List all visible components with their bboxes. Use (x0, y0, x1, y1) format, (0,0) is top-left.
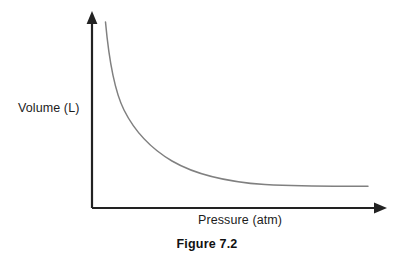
pressure-volume-curve (106, 22, 369, 186)
x-axis-label: Pressure (atm) (198, 214, 282, 227)
y-axis-arrowhead-icon (87, 11, 98, 24)
x-axis-arrowhead-icon (374, 203, 387, 214)
y-axis-label: Volume (L) (18, 102, 79, 115)
figure-caption: Figure 7.2 (0, 238, 414, 251)
figure-container: Volume (L) Pressure (atm) Figure 7.2 (0, 0, 414, 261)
